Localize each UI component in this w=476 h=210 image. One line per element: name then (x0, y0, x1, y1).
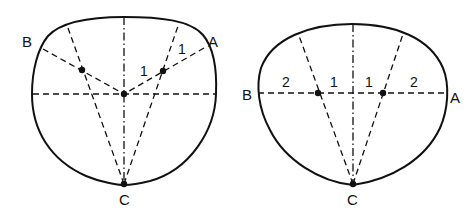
right-seg-label-1: 2 (282, 74, 290, 90)
left-label-a: A (208, 33, 218, 50)
left-point-b (79, 67, 85, 73)
right-seg-label-2: 1 (330, 74, 338, 90)
right-label-b: B (242, 86, 252, 103)
left-seg-label-2: 1 (178, 41, 186, 57)
right-point-left (315, 90, 321, 96)
right-seg-label-3: 1 (365, 74, 373, 90)
right-point-c (350, 181, 356, 187)
left-label-b: B (22, 33, 32, 50)
left-center-point (121, 91, 127, 97)
right-seg-label-4: 2 (410, 74, 418, 90)
left-line-c-right (124, 26, 178, 184)
diagram-canvas: B A C 1 1 B A C 2 1 1 2 (0, 0, 476, 210)
right-line-c-right (353, 34, 403, 184)
right-figure (258, 24, 447, 187)
left-line-c-left (68, 28, 124, 184)
right-label-a: A (450, 89, 460, 106)
right-label-c: C (347, 191, 358, 208)
left-label-c: C (119, 191, 130, 208)
left-point-a (160, 68, 166, 74)
left-point-c (121, 181, 127, 187)
right-line-c-left (298, 33, 353, 184)
right-point-right (380, 90, 386, 96)
left-figure (32, 17, 216, 187)
left-seg-label-1: 1 (140, 63, 148, 79)
